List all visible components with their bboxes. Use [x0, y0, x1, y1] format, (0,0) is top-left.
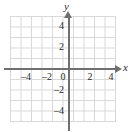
x-tick-label-zero: 0	[61, 72, 66, 82]
x-axis-line	[4, 68, 117, 70]
y-tick-label-neg4: –4	[48, 106, 64, 116]
y-axis-label: y	[64, 1, 69, 12]
y-tick-label-neg2: –2	[48, 85, 64, 95]
x-axis-arrow-icon	[115, 65, 122, 73]
x-axis-label: x	[123, 62, 128, 73]
y-axis-line	[68, 14, 70, 131]
x-tick-label-neg4: –4	[21, 72, 31, 82]
x-tick-label-pos2: 2	[88, 72, 93, 82]
coordinate-grid-figure: x y –4 –2 0 2 4 4 2 –2 –4	[0, 0, 133, 132]
y-tick-label-pos4: 4	[52, 21, 64, 31]
y-tick-label-pos2: 2	[52, 42, 64, 52]
x-tick-label-pos4: 4	[109, 72, 114, 82]
y-axis-arrow-icon	[64, 11, 72, 18]
x-tick-label-neg2: –2	[42, 72, 52, 82]
